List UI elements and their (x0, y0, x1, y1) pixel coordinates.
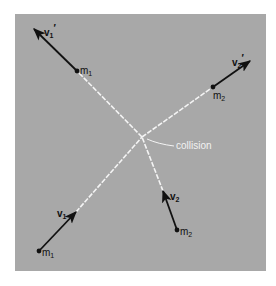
mass-dot-m1-before (37, 249, 42, 254)
mass-dot-m2-after (211, 85, 216, 90)
collision-diagram: collision m1 m2 m1 m2 v1 v2 v1′ v2′ (0, 0, 276, 286)
mass-dot-m1-after (75, 69, 80, 74)
collision-label: collision (176, 140, 212, 151)
mass-dot-m2-before (175, 228, 180, 233)
diagram-panel (15, 14, 266, 271)
